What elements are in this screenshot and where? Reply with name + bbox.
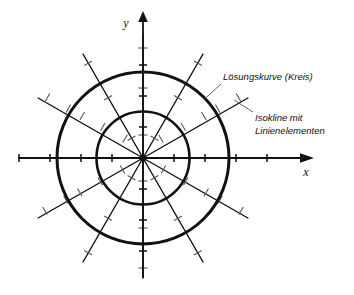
x-axis-arrow-icon bbox=[300, 153, 314, 163]
leader-line-solution-curve bbox=[204, 84, 222, 100]
y-axis-label: y bbox=[122, 16, 129, 30]
x-axis-label: x bbox=[302, 165, 309, 179]
line-element bbox=[101, 123, 106, 131]
isocline-diagram-svg: y x Lösungskurve (Kreis) Isokline mit Li… bbox=[0, 0, 354, 295]
y-axis-arrow-icon bbox=[138, 11, 148, 22]
line-element bbox=[151, 176, 159, 181]
line-element bbox=[236, 94, 241, 102]
line-element bbox=[45, 94, 50, 102]
line-element bbox=[202, 112, 207, 120]
figure-canvas: y x Lösungskurve (Kreis) Isokline mit Li… bbox=[0, 0, 354, 295]
line-element bbox=[128, 176, 136, 181]
line-element bbox=[181, 123, 186, 131]
line-element bbox=[123, 135, 128, 143]
leader-line-isokline bbox=[234, 100, 253, 112]
line-element bbox=[80, 112, 85, 120]
annotation-isokline-line1: Isokline mit bbox=[255, 112, 303, 123]
line-element bbox=[159, 135, 164, 143]
annotation-isokline-line2: Linienelementen bbox=[255, 125, 325, 136]
annotation-solution-curve: Lösungskurve (Kreis) bbox=[223, 71, 313, 82]
annotation-leaders-group bbox=[204, 84, 254, 112]
origin-point bbox=[140, 155, 147, 162]
